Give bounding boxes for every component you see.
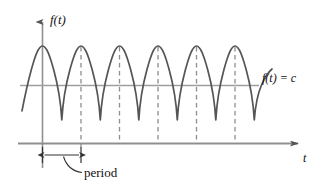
x-axis-label: t bbox=[303, 152, 306, 164]
periodic-function-figure: FIGURE 4.2 bbox=[0, 0, 318, 187]
period-annotation-label: period bbox=[84, 166, 117, 179]
y-axis-label: f(t) bbox=[50, 13, 66, 26]
figure-canvas bbox=[0, 0, 318, 187]
period-leader-line bbox=[64, 157, 83, 173]
dashed-peak-guides bbox=[81, 47, 235, 150]
constant-line-label: f(t) = c bbox=[262, 72, 296, 84]
